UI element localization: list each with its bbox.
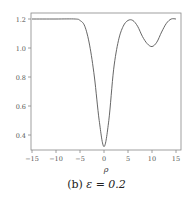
x-axis-label: ρ: [103, 165, 109, 174]
x-tick-label: 5: [126, 155, 130, 163]
plot-frame: [31, 13, 181, 150]
x-tick-label: −10: [49, 155, 63, 163]
x-tick-label: 0: [102, 155, 106, 163]
x-tick-label: −15: [25, 155, 39, 163]
line-chart: 0.40.60.81.01.2 −15−10−5051015 ρ: [0, 0, 193, 178]
data-line: [32, 19, 176, 147]
y-axis-ticks: 0.40.60.81.01.2: [16, 16, 31, 140]
x-tick-label: 10: [148, 155, 156, 163]
y-tick-label: 0.4: [16, 132, 26, 140]
y-tick-label: 0.6: [16, 103, 26, 111]
x-tick-label: −5: [75, 155, 85, 163]
x-axis-ticks: −15−10−5051015: [25, 150, 180, 163]
y-tick-label: 1.0: [16, 45, 26, 53]
caption-text: ε = 0.2: [86, 178, 126, 191]
y-tick-label: 1.2: [16, 16, 26, 24]
y-tick-label: 0.8: [16, 74, 26, 82]
x-tick-label: 15: [172, 155, 180, 163]
figure-caption: (b) ε = 0.2: [0, 178, 193, 191]
caption-label: (b): [67, 178, 83, 191]
